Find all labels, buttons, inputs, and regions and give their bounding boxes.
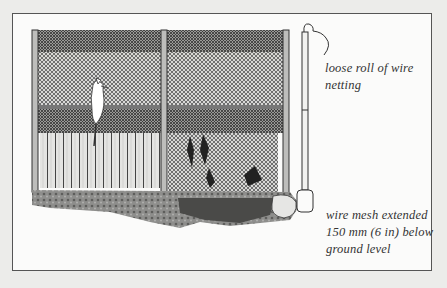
caption-loose-roll: loose roll of wire netting bbox=[325, 60, 435, 94]
caption-wire-mesh-extended: wire mesh extended 150 mm (6 in) below g… bbox=[326, 207, 441, 258]
roof-mesh bbox=[32, 30, 288, 52]
netting-roll-pole bbox=[297, 24, 329, 212]
